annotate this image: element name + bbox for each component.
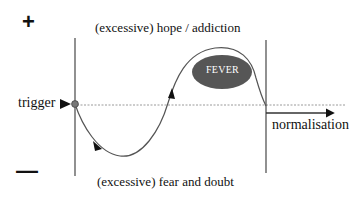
normalisation-label: normalisation	[272, 118, 349, 132]
trigger-point-dot	[72, 101, 79, 108]
fear-doubt-label: (excessive) fear and doubt	[97, 175, 234, 188]
hope-addiction-label: (excessive) hope / addiction	[95, 21, 240, 34]
negative-sign: —	[16, 160, 38, 182]
fever-label: FEVER	[193, 65, 252, 75]
trigger-label: trigger	[18, 96, 55, 110]
positive-sign: +	[22, 11, 35, 33]
sentiment-cycle-diagram: + — (excessive) hope / addiction (excess…	[0, 0, 361, 198]
curve-up-arrow-icon	[168, 88, 175, 99]
trigger-arrow-icon	[60, 99, 71, 109]
